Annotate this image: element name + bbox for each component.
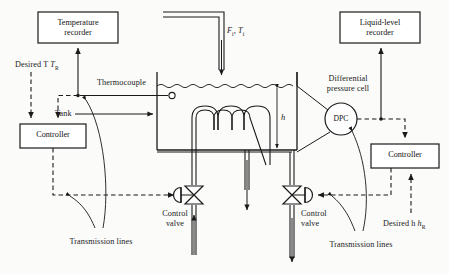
tank-outlet-middle bbox=[245, 150, 249, 210]
desired-temperature-label: Desired TTR bbox=[15, 60, 59, 70]
signal-lines-left bbox=[31, 48, 174, 195]
heating-coil bbox=[192, 106, 270, 165]
liquid-level-recorder-line1: Liquid-level bbox=[360, 18, 400, 27]
controller-left-label: Controller bbox=[20, 130, 86, 140]
thermocouple-label: Thermocouple bbox=[97, 78, 146, 88]
transmission-lines-right-label: Transmission lines bbox=[296, 240, 426, 250]
controller-right-label: Controller bbox=[371, 150, 439, 160]
control-valve-right-label: Control valve bbox=[301, 209, 327, 228]
process-diagram: Temperature recorder Liquid-level record… bbox=[0, 0, 449, 275]
liquid-level-recorder-label: Liquid-level recorder bbox=[340, 18, 420, 38]
dpc-label: DPC bbox=[325, 114, 357, 124]
desired-level-label: Desired hhR bbox=[383, 219, 426, 229]
level-variable-label: h bbox=[281, 113, 285, 123]
tank-label: Tank bbox=[55, 109, 72, 119]
control-valve-right[interactable] bbox=[283, 186, 313, 204]
differential-pressure-cell-label: Differential pressure cell bbox=[315, 74, 381, 93]
inlet-pipe bbox=[163, 12, 224, 75]
temperature-recorder-line1: Temperature bbox=[57, 18, 98, 27]
temperature-recorder-line2: recorder bbox=[64, 28, 91, 37]
control-valve-left-label: Control valve bbox=[153, 209, 197, 228]
temperature-recorder-label: Temperature recorder bbox=[38, 18, 118, 38]
inlet-stream-label: Fi, Ti bbox=[227, 26, 244, 36]
thermocouple-sensor bbox=[80, 92, 175, 98]
control-valve-left[interactable] bbox=[174, 186, 203, 204]
outlet-line-right bbox=[157, 150, 294, 262]
transmission-lines-left-label: Transmission lines bbox=[36, 237, 166, 247]
liquid-level-recorder-line2: recorder bbox=[366, 28, 393, 37]
